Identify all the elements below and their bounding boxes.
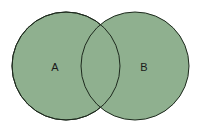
venn-diagram: A B — [0, 0, 199, 133]
set-a-label: A — [51, 61, 59, 73]
set-b-label: B — [140, 61, 147, 73]
set-b-circle — [81, 12, 189, 120]
